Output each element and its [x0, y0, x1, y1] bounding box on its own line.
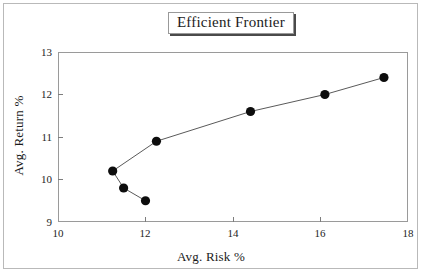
y-tick-mark-10 [58, 179, 63, 180]
y-tick-mark-11 [58, 137, 63, 138]
y-tick-mark-12 [58, 94, 63, 95]
data-point-marker[interactable] [320, 90, 329, 99]
x-axis-title: Avg. Risk % [0, 249, 422, 264]
x-tick-mark-12 [145, 217, 146, 222]
y-tick-label-10: 10 [30, 173, 52, 185]
x-tick-mark-14 [233, 217, 234, 222]
data-point-marker[interactable] [141, 196, 150, 205]
x-tick-label-18: 18 [395, 227, 421, 239]
x-tick-mark-16 [320, 217, 321, 222]
y-tick-label-12: 12 [30, 88, 52, 100]
data-point-marker[interactable] [108, 166, 117, 175]
data-point-marker[interactable] [379, 73, 388, 82]
x-tick-label-16: 16 [307, 227, 333, 239]
chart-figure: Efficient Frontier 9 10 11 12 13 10 12 1… [0, 0, 422, 273]
x-tick-label-10: 10 [45, 227, 71, 239]
data-series-layer [108, 73, 388, 205]
data-point-marker[interactable] [119, 183, 128, 192]
y-axis-title: Avg. Return % [11, 76, 26, 196]
x-tick-label-14: 14 [220, 227, 246, 239]
chart-title: Efficient Frontier [168, 12, 294, 34]
y-tick-label-11: 11 [30, 131, 52, 143]
data-point-marker[interactable] [246, 107, 255, 116]
chart-plot-svg [58, 52, 408, 222]
y-tick-label-13: 13 [30, 46, 52, 58]
data-point-marker[interactable] [152, 137, 161, 146]
x-tick-label-12: 12 [132, 227, 158, 239]
